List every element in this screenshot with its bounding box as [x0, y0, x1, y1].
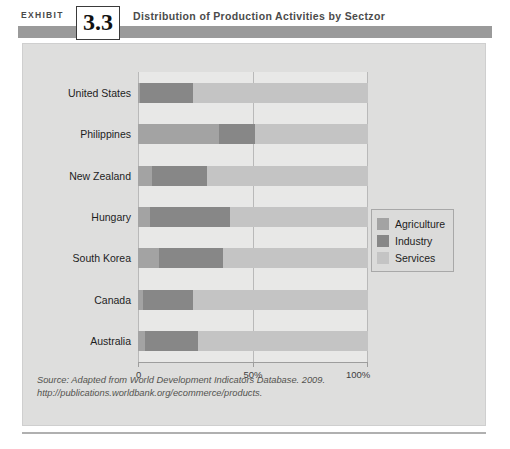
plot-area: 050%100%	[138, 72, 368, 362]
legend-swatch-industry	[377, 235, 389, 247]
bar-row[interactable]	[138, 207, 368, 227]
y-axis-label: Canada	[31, 294, 131, 306]
bar-segment-services[interactable]	[193, 83, 368, 103]
y-axis-label: Philippines	[31, 128, 131, 140]
legend-swatch-agriculture	[377, 218, 389, 230]
y-axis-label: New Zealand	[31, 170, 131, 182]
bar-segment-services[interactable]	[198, 331, 368, 351]
bar-segment-agriculture[interactable]	[138, 248, 159, 268]
legend-label: Agriculture	[395, 218, 445, 230]
footer-rule	[22, 432, 486, 434]
legend-item[interactable]: Agriculture	[377, 215, 445, 232]
y-axis-label: South Korea	[31, 252, 131, 264]
bar-segment-industry[interactable]	[145, 331, 198, 351]
page-title: Distribution of Production Activities by…	[133, 10, 385, 22]
source-note: Source: Adapted from World Development I…	[37, 374, 473, 400]
bar-segment-services[interactable]	[255, 124, 368, 144]
bar-segment-industry[interactable]	[159, 248, 223, 268]
legend-item[interactable]: Industry	[377, 232, 445, 249]
bar-segment-agriculture[interactable]	[138, 124, 219, 144]
exhibit-number: 3.3	[83, 10, 113, 36]
bar-segment-agriculture[interactable]	[138, 166, 152, 186]
chart-panel: United StatesPhilippinesNew ZealandHunga…	[22, 43, 486, 426]
bar-row[interactable]	[138, 290, 368, 310]
bar-segment-industry[interactable]	[150, 207, 231, 227]
y-axis-label: Hungary	[31, 211, 131, 223]
bar-segment-industry[interactable]	[140, 83, 193, 103]
y-axis-label: Australia	[31, 335, 131, 347]
bar-segment-services[interactable]	[223, 248, 368, 268]
bar-segment-services[interactable]	[230, 207, 368, 227]
chart-legend: AgricultureIndustryServices	[371, 209, 454, 272]
bar-segment-industry[interactable]	[143, 290, 194, 310]
x-tick-0	[138, 362, 139, 367]
legend-item[interactable]: Services	[377, 249, 445, 266]
bar-row[interactable]	[138, 248, 368, 268]
bar-row[interactable]	[138, 166, 368, 186]
bar-segment-industry[interactable]	[152, 166, 207, 186]
x-tick-100	[367, 362, 368, 367]
exhibit-header: EXHIBIT 3.3 Distribution of Production A…	[0, 0, 510, 46]
legend-label: Services	[395, 252, 435, 264]
x-tick-50	[253, 362, 254, 367]
bar-row[interactable]	[138, 124, 368, 144]
legend-swatch-services	[377, 252, 389, 264]
bar-row[interactable]	[138, 83, 368, 103]
bar-segment-services[interactable]	[193, 290, 368, 310]
exhibit-number-box: 3.3	[76, 6, 120, 40]
legend-label: Industry	[395, 235, 432, 247]
bar-row[interactable]	[138, 331, 368, 351]
exhibit-label: EXHIBIT	[21, 10, 64, 20]
bar-segment-agriculture[interactable]	[138, 331, 145, 351]
y-axis-labels: United StatesPhilippinesNew ZealandHunga…	[23, 72, 131, 362]
bar-segment-services[interactable]	[207, 166, 368, 186]
bar-segment-industry[interactable]	[219, 124, 256, 144]
bar-segment-agriculture[interactable]	[138, 207, 150, 227]
y-axis-label: United States	[31, 87, 131, 99]
